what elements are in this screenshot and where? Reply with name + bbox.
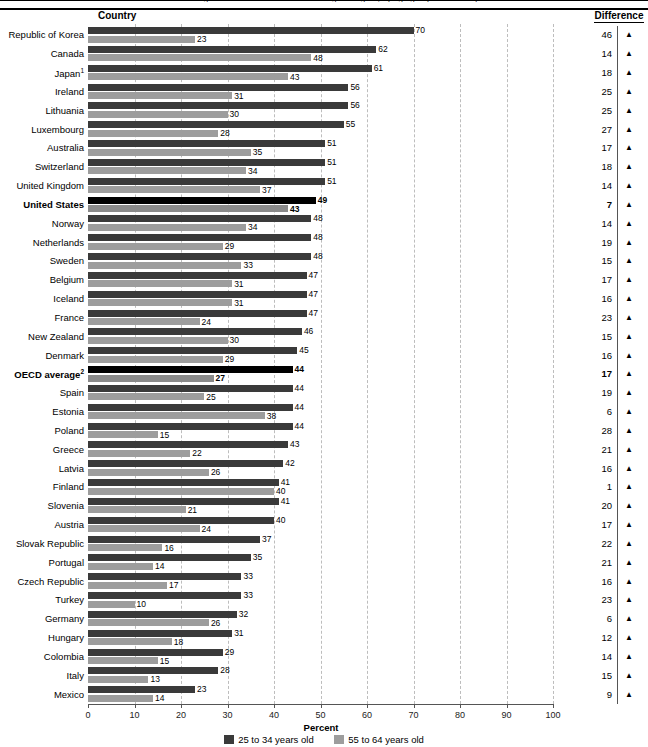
difference-value: 23 bbox=[578, 312, 612, 323]
chart-row: Lithuania5630 bbox=[0, 101, 648, 120]
bar-55-64 bbox=[88, 488, 274, 495]
bar-value-55-64: 40 bbox=[276, 487, 285, 495]
bar-25-34 bbox=[88, 366, 293, 373]
bar-value-55-64: 17 bbox=[169, 581, 178, 589]
chart-row: Greece4322 bbox=[0, 440, 648, 459]
bar-55-64 bbox=[88, 393, 204, 400]
country-label: OECD average2 bbox=[0, 368, 84, 380]
bar-25-34 bbox=[88, 686, 195, 693]
tick-0 bbox=[88, 704, 89, 708]
difference-value: 27 bbox=[578, 124, 612, 135]
bar-value-55-64: 13 bbox=[150, 675, 159, 683]
bar-55-64 bbox=[88, 186, 260, 193]
bar-25-34 bbox=[88, 178, 325, 185]
tick-label-70: 70 bbox=[408, 710, 418, 720]
tick-50 bbox=[321, 704, 322, 708]
difference-up-arrow-icon: ▲ bbox=[622, 333, 636, 341]
country-label: Italy bbox=[0, 670, 84, 681]
bar-25-34 bbox=[88, 441, 288, 448]
chart-legend: 25 to 34 years old 55 to 64 years old bbox=[0, 733, 648, 745]
bar-55-64 bbox=[88, 412, 265, 419]
chart-row: New Zealand4630 bbox=[0, 327, 648, 346]
bar-value-55-64: 27 bbox=[216, 374, 225, 382]
bar-value-25-34: 32 bbox=[239, 610, 248, 618]
chart-row: OECD average24427 bbox=[0, 365, 648, 384]
bar-55-64 bbox=[88, 299, 232, 306]
difference-value: 15 bbox=[578, 670, 612, 681]
bar-55-64 bbox=[88, 167, 246, 174]
bar-value-25-34: 40 bbox=[276, 516, 285, 524]
bar-value-55-64: 43 bbox=[290, 205, 299, 213]
chart-row: Belgium4731 bbox=[0, 271, 648, 290]
bar-value-25-34: 55 bbox=[346, 120, 355, 128]
difference-up-arrow-icon: ▲ bbox=[622, 427, 636, 435]
bar-55-64 bbox=[88, 657, 158, 664]
bar-value-25-34: 23 bbox=[197, 685, 206, 693]
bar-value-25-34: 41 bbox=[281, 478, 290, 486]
chart-row: Luxembourg5528 bbox=[0, 120, 648, 139]
country-label: Portugal bbox=[0, 557, 84, 568]
bar-55-64 bbox=[88, 280, 232, 287]
difference-up-arrow-icon: ▲ bbox=[622, 389, 636, 397]
bar-value-25-34: 48 bbox=[313, 233, 322, 241]
bar-value-55-64: 24 bbox=[202, 525, 211, 533]
bar-25-34 bbox=[88, 347, 297, 354]
country-label: Greece bbox=[0, 444, 84, 455]
difference-up-arrow-icon: ▲ bbox=[622, 126, 636, 134]
bar-55-64 bbox=[88, 582, 167, 589]
tick-label-20: 20 bbox=[176, 710, 186, 720]
bar-55-64 bbox=[88, 431, 158, 438]
country-label: Australia bbox=[0, 142, 84, 153]
bar-value-55-64: 21 bbox=[188, 506, 197, 514]
bar-value-25-34: 51 bbox=[327, 158, 336, 166]
chart-row: Australia5135 bbox=[0, 139, 648, 158]
difference-up-arrow-icon: ▲ bbox=[622, 88, 636, 96]
bar-value-55-64: 15 bbox=[160, 431, 169, 439]
difference-value: 28 bbox=[578, 425, 612, 436]
bar-value-25-34: 46 bbox=[304, 327, 313, 335]
bar-25-34 bbox=[88, 592, 241, 599]
bar-value-25-34: 51 bbox=[327, 139, 336, 147]
difference-up-arrow-icon: ▲ bbox=[622, 502, 636, 510]
chart-row: Switzerland5134 bbox=[0, 158, 648, 177]
bar-25-34 bbox=[88, 385, 293, 392]
difference-up-arrow-icon: ▲ bbox=[622, 163, 636, 171]
difference-value: 16 bbox=[578, 350, 612, 361]
bar-value-55-64: 31 bbox=[234, 280, 243, 288]
difference-up-arrow-icon: ▲ bbox=[622, 314, 636, 322]
bar-25-34 bbox=[88, 310, 307, 317]
country-label: Japan1 bbox=[0, 67, 84, 79]
tick-label-30: 30 bbox=[222, 710, 232, 720]
country-label: Slovak Republic bbox=[0, 538, 84, 549]
difference-up-arrow-icon: ▲ bbox=[622, 691, 636, 699]
legend-item-young: 25 to 34 years old bbox=[224, 734, 314, 745]
country-label: Austria bbox=[0, 519, 84, 530]
bar-value-55-64: 25 bbox=[206, 393, 215, 401]
country-label: Turkey bbox=[0, 594, 84, 605]
difference-value: 17 bbox=[578, 368, 612, 379]
tick-label-90: 90 bbox=[501, 710, 511, 720]
chart-row: Colombia2915 bbox=[0, 648, 648, 667]
difference-value: 19 bbox=[578, 237, 612, 248]
bar-value-25-34: 33 bbox=[243, 591, 252, 599]
difference-value: 23 bbox=[578, 594, 612, 605]
difference-up-arrow-icon: ▲ bbox=[622, 201, 636, 209]
country-label: Sweden bbox=[0, 255, 84, 266]
bar-value-25-34: 48 bbox=[313, 214, 322, 222]
country-label: France bbox=[0, 312, 84, 323]
bar-55-64 bbox=[88, 318, 200, 325]
bar-value-55-64: 14 bbox=[155, 562, 164, 570]
bar-25-34 bbox=[88, 498, 279, 505]
difference-value: 1 bbox=[578, 481, 612, 492]
bar-25-34 bbox=[88, 423, 293, 430]
bar-value-25-34: 51 bbox=[327, 177, 336, 185]
bar-25-34 bbox=[88, 460, 283, 467]
bar-25-34 bbox=[88, 272, 307, 279]
bar-55-64 bbox=[88, 36, 195, 43]
chart-row: Republic of Korea7023 bbox=[0, 26, 648, 45]
bar-value-25-34: 44 bbox=[295, 422, 304, 430]
country-label: Norway bbox=[0, 218, 84, 229]
bar-value-25-34: 47 bbox=[309, 309, 318, 317]
bar-55-64 bbox=[88, 469, 209, 476]
country-label: Switzerland bbox=[0, 161, 84, 172]
